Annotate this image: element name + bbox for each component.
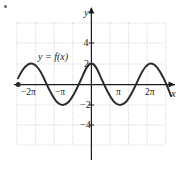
y-tick-label-4: 4 bbox=[84, 38, 89, 48]
y-axis-label: y bbox=[84, 8, 89, 19]
x-tick-label-pi: π bbox=[116, 88, 121, 98]
axes bbox=[14, 8, 175, 160]
x-axis-label: x bbox=[171, 89, 176, 100]
x-tick-label-minus-pi: −π bbox=[55, 88, 65, 98]
y-tick-label-2: 2 bbox=[84, 59, 89, 69]
coordinate-plane bbox=[0, 0, 186, 169]
curve-label: y = f(x) bbox=[38, 52, 68, 62]
x-tick-label-2pi: 2π bbox=[145, 88, 155, 98]
x-tick-label-minus-2pi: −2π bbox=[21, 88, 36, 98]
graph-figure: y x y = f(x) 4 2 −2 −4 −2π −π π 2π bbox=[0, 0, 186, 169]
y-tick-label-minus-2: −2 bbox=[80, 100, 91, 110]
x-axis-arrow bbox=[169, 82, 176, 88]
y-axis-arrow bbox=[89, 7, 95, 14]
curve-endpoint-dot bbox=[16, 82, 21, 87]
y-tick-label-minus-4: −4 bbox=[80, 120, 91, 130]
